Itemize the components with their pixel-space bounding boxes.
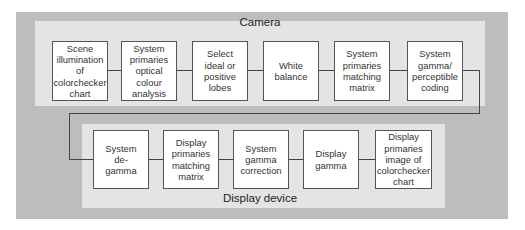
box-select-lobes: Select ideal or positive lobes bbox=[192, 41, 248, 101]
box-scene-illumination: Scene illumination of colorchecker chart bbox=[52, 41, 108, 101]
connector-line bbox=[177, 70, 192, 71]
connector-line bbox=[149, 159, 163, 160]
connector-line bbox=[358, 159, 375, 160]
connector-line bbox=[318, 70, 334, 71]
box-display-gamma: Display gamma bbox=[303, 130, 359, 189]
box-system-gamma-correction: System gamma correction bbox=[233, 130, 289, 189]
connector-line bbox=[69, 113, 480, 114]
camera-title: Camera bbox=[200, 16, 320, 28]
box-display-matching-matrix: Display primaries matching matrix bbox=[163, 130, 219, 189]
display-device-title: Display device bbox=[200, 192, 320, 204]
box-display-image-colorchecker: Display primaries image of colorchecker … bbox=[375, 130, 432, 189]
connector-line bbox=[247, 70, 263, 71]
connector-line bbox=[389, 70, 407, 71]
connector-line bbox=[218, 159, 233, 160]
connector-line bbox=[462, 70, 480, 71]
box-system-gamma-coding: System gamma/ perceptible coding bbox=[407, 41, 463, 101]
box-optical-colour-analysis: System primaries optical colour analysis bbox=[121, 41, 177, 101]
connector-line bbox=[69, 159, 93, 160]
connector-line bbox=[479, 70, 480, 114]
box-white-balance: White balance bbox=[263, 41, 319, 101]
connector-line bbox=[288, 159, 303, 160]
connector-line bbox=[69, 113, 70, 160]
connector-line bbox=[107, 70, 121, 71]
box-system-de-gamma: System de- gamma bbox=[93, 130, 149, 189]
box-camera-matching-matrix: System primaries matching matrix bbox=[334, 41, 390, 101]
